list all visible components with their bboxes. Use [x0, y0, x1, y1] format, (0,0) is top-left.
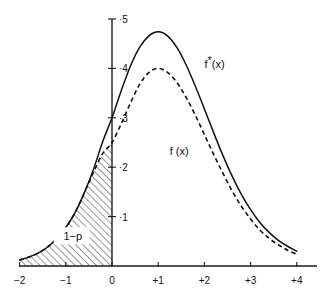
x-tick-label: +3 [245, 275, 257, 286]
y-tick-label: ·4 [119, 63, 128, 74]
y-tick-label: ·1 [119, 212, 128, 223]
f-x-text: f (x) [170, 145, 189, 157]
area-label-text: 1−p [63, 230, 82, 242]
label-f-x: f (x) [170, 145, 189, 157]
label-1-minus-p: 1−p [54, 227, 90, 244]
probability-density-plot: ·5·4·3·2·1 −2−10+1+2+3+4 f*(x) f (x) 1−p [0, 0, 331, 295]
svg-text:f*(x): f*(x) [204, 54, 224, 70]
x-tick-label: +4 [291, 275, 303, 286]
x-tick-label: 0 [109, 275, 115, 286]
label-f-star-x: f*(x) [204, 54, 224, 70]
y-tick-label: ·2 [119, 162, 128, 173]
x-tick-label: −2 [14, 275, 26, 286]
x-tick-label: +1 [152, 275, 164, 286]
y-tick-label: ·3 [119, 113, 128, 124]
figure-canvas: ·5·4·3·2·1 −2−10+1+2+3+4 f*(x) f (x) 1−p [0, 0, 331, 295]
x-tick-label: +2 [199, 275, 211, 286]
y-tick-label: ·5 [119, 14, 128, 25]
x-tick-label: −1 [60, 275, 72, 286]
f-star-arg-text: (x) [212, 58, 225, 70]
